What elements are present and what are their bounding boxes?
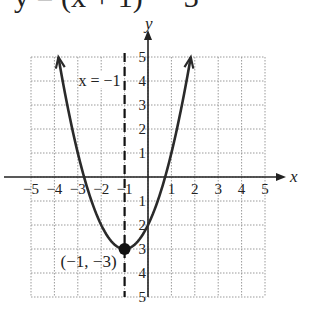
x-axis-arrow-icon (276, 173, 286, 181)
x-tick-label: 4 (238, 181, 246, 197)
x-tick-label: 1 (168, 181, 176, 197)
x-tick-label: −4 (46, 181, 62, 197)
axis-of-symmetry-label: x = −1 (79, 72, 121, 89)
x-tick-label: 2 (191, 181, 199, 197)
x-tick-label: −5 (23, 181, 39, 197)
x-tick-label: −2 (93, 181, 109, 197)
x-axis-label: x (289, 167, 298, 186)
vertex-label: (−1, −3) (61, 252, 117, 271)
vertex-point (119, 243, 131, 255)
y-tick-label: 5 (139, 289, 147, 305)
y-tick-label: 2 (139, 121, 147, 137)
graph-figure: y = (x + 1)² − 3 xy−5−4−3−2−112345543211… (0, 0, 309, 318)
y-tick-label: 4 (139, 265, 147, 281)
y-tick-label: 4 (139, 73, 147, 89)
x-tick-label: −3 (70, 181, 86, 197)
y-axis-label: y (143, 14, 153, 33)
y-tick-label: 5 (139, 49, 147, 65)
y-tick-label: 1 (139, 193, 147, 209)
y-tick-label: 1 (139, 145, 147, 161)
y-tick-label: 3 (139, 97, 147, 113)
parabola-chart: xy−5−4−3−2−1123455432112345x = −1(−1, −3… (0, 0, 309, 318)
x-tick-label: 3 (214, 181, 222, 197)
x-tick-label: 5 (261, 181, 269, 197)
y-tick-label: 3 (139, 241, 147, 257)
